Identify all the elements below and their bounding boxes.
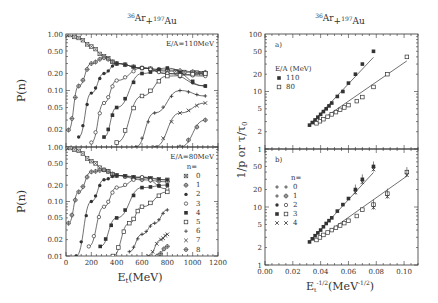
marker [111,113,115,117]
fit-curve-n3 [89,177,168,246]
marker [122,230,126,234]
legend-label: 1 [196,181,200,189]
legend-title: n= [187,163,198,171]
x-axis-unit-sup: -1/2 [358,279,370,286]
marker [94,86,97,89]
marker [338,224,342,228]
y-tick-label: 50 [253,48,262,56]
legend-label: 3 [293,210,297,218]
marker [204,94,208,98]
marker [85,67,90,72]
fit-curve-n8 [180,120,205,147]
marker [132,217,136,221]
marker [284,212,288,216]
y-axis-label: 1/p or τ/τ0 [235,122,249,179]
x-tick-label: 0 [64,259,68,267]
marker [322,233,326,237]
fit-curve-n4 [104,68,205,137]
legend-label: 80 [286,83,295,91]
x-axis-unit-close: ) [370,280,374,293]
y-tick-label: 0.10 [47,198,63,206]
chart-title: 36Ar+197Au [315,12,365,26]
mass-number: 197 [153,15,165,22]
y-tick-label: 0.05 [47,214,63,222]
marker [87,245,90,248]
x-tick-label: 0.04 [313,268,329,276]
y-tick-label: 0.01 [47,253,63,261]
marker [140,186,144,190]
y-axis-main: 1/p or [235,142,248,179]
y-tick-label: 0.05 [47,104,63,112]
y-tick-label: 5 [258,221,262,229]
marker [90,141,93,144]
marker [166,66,170,70]
marker [94,194,97,197]
element: Au [352,16,365,26]
marker [102,178,105,181]
marker [166,74,170,78]
marker [102,135,106,139]
marker [90,91,93,94]
marker [70,116,75,121]
y-tick-label: 0.20 [47,70,63,78]
marker [107,177,110,180]
marker [111,254,115,258]
marker [92,234,95,237]
marker [97,57,102,62]
marker [355,99,359,103]
y-axis-sub: 0 [241,122,249,126]
marker [81,124,84,127]
legend: n=01234 [275,174,301,227]
marker [85,214,88,217]
marker [338,108,342,112]
legend-label: 7 [196,236,200,244]
marker [94,131,97,134]
marker [308,240,312,244]
marker [93,169,98,174]
y-tick-label: 0.50 [47,48,63,56]
marker [123,63,126,66]
marker [98,245,102,249]
y-tick-label: 100 [249,31,262,39]
legend-label: 2 [196,190,200,198]
marker [330,228,334,232]
marker [102,205,105,208]
marker [284,221,288,225]
marker [275,203,278,206]
marker [128,221,132,225]
marker [123,129,127,133]
marker [284,185,288,189]
marker [372,85,376,89]
marker [132,106,136,110]
marker [115,216,119,220]
marker [107,200,110,203]
marker [128,250,132,254]
marker [342,106,346,110]
marker [334,110,338,114]
x-axis-sup: -1/2 [316,279,328,286]
x-tick-label: 0.06 [341,268,357,276]
marker [123,76,126,79]
marker [157,79,161,83]
marker [372,50,376,54]
series-group [308,161,409,243]
legend-label: 6 [196,227,201,235]
marker [140,94,144,98]
marker [275,185,279,189]
marker [326,231,330,235]
marker [89,61,94,66]
marker [140,72,144,76]
marker [77,135,80,138]
marker [149,70,153,74]
y-tick-label: 20 [253,186,262,194]
marker [347,197,351,201]
marker [157,194,161,198]
marker [106,128,110,132]
marker [111,85,114,88]
legend-title: E/A (MeV) [275,65,312,73]
marker [111,64,114,67]
x-axis-label: Et(MeV) [117,271,162,285]
marker [319,228,323,232]
plot-frame [66,34,218,147]
x-axis-label: Et-1/2(MeV-1/2) [306,279,374,293]
